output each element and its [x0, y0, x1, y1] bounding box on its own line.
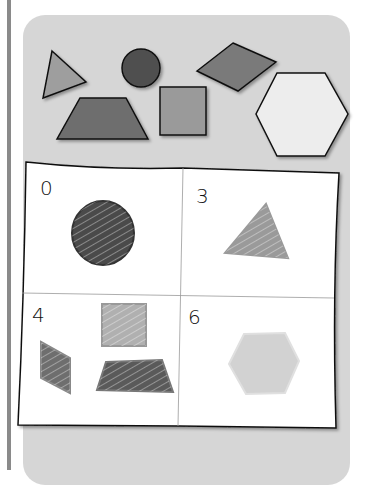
scribble-square-hatch	[102, 304, 146, 346]
count-circle: 0	[40, 176, 53, 200]
count-four-sided: 4	[32, 303, 45, 327]
scribble-circle-hatch	[72, 201, 134, 265]
trapezoid-shape	[57, 98, 148, 139]
circle-shape	[122, 49, 160, 87]
hexagon-shape	[256, 73, 348, 156]
triangle-shape	[43, 51, 86, 98]
scribble-trapezoid-hatch	[97, 360, 173, 392]
count-hexagon: 6	[188, 305, 201, 329]
rhombus-shape	[197, 43, 276, 91]
count-triangle: 3	[196, 184, 209, 208]
square-shape	[160, 87, 206, 135]
